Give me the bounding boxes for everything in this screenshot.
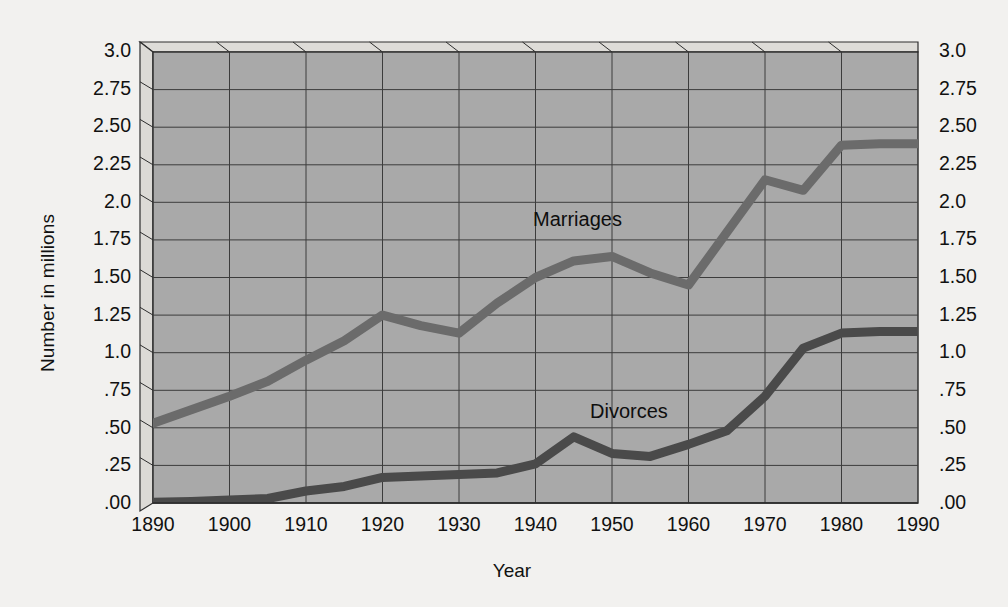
x-axis-labels: 1890 1900 1910 1920 1930 1940 1950 1960 …: [0, 0, 1008, 607]
x-axis-title-text: Year: [493, 560, 531, 581]
marriages-divorces-line-chart: 3.0 2.75 2.50 2.25 2.0 1.75 1.50 1.25 1.…: [0, 0, 1008, 607]
x-axis-title: Year: [0, 560, 1008, 582]
series-label-marriages: Marriages: [533, 208, 622, 231]
x-tick-1990: 1990: [873, 515, 963, 535]
series-label-divorces: Divorces: [590, 400, 668, 423]
y-axis-title: Number in millions: [37, 183, 59, 403]
